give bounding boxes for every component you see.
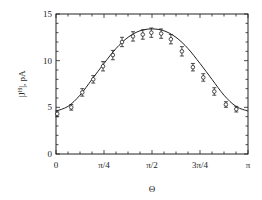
data-point bbox=[120, 37, 124, 46]
x-tick-label: π/4 bbox=[98, 160, 110, 170]
open-circle-marker bbox=[150, 31, 154, 35]
open-circle-marker bbox=[169, 37, 173, 41]
fit-curve bbox=[56, 29, 248, 111]
data-point bbox=[80, 89, 84, 96]
data-points bbox=[55, 28, 238, 117]
x-tick-label: π bbox=[246, 160, 251, 170]
open-circle-marker bbox=[91, 78, 95, 82]
data-point bbox=[224, 102, 228, 108]
open-circle-marker bbox=[224, 103, 228, 107]
data-point bbox=[169, 35, 173, 44]
data-point bbox=[180, 47, 184, 56]
open-circle-marker bbox=[101, 64, 105, 68]
y-axis-ticks: 051015 bbox=[43, 9, 248, 159]
open-circle-marker bbox=[191, 65, 195, 69]
y-tick-label: 5 bbox=[48, 102, 53, 112]
open-circle-marker bbox=[159, 32, 163, 36]
plot-frame bbox=[56, 14, 248, 154]
x-axis-label: Θ bbox=[149, 184, 156, 194]
fit-line bbox=[56, 29, 248, 111]
y-tick-label: 15 bbox=[43, 9, 53, 19]
open-circle-marker bbox=[111, 53, 115, 57]
open-circle-marker bbox=[212, 90, 216, 94]
x-tick-label: 0 bbox=[54, 160, 59, 170]
open-circle-marker bbox=[80, 91, 84, 95]
data-point bbox=[201, 74, 205, 81]
open-circle-marker bbox=[69, 106, 73, 110]
y-tick-label: 0 bbox=[48, 149, 53, 159]
x-tick-label: π/2 bbox=[146, 160, 158, 170]
open-circle-marker bbox=[131, 35, 135, 39]
open-circle-marker bbox=[201, 76, 205, 80]
open-circle-marker bbox=[120, 40, 124, 44]
open-circle-marker bbox=[234, 107, 238, 111]
open-circle-marker bbox=[141, 33, 145, 37]
plot-border bbox=[56, 14, 248, 154]
open-circle-marker bbox=[55, 112, 59, 116]
x-tick-label: 3π/4 bbox=[192, 160, 209, 170]
y-tick-label: 10 bbox=[43, 56, 53, 66]
y-axis-label: |JH|, pA bbox=[17, 70, 27, 97]
data-point bbox=[212, 88, 216, 95]
data-point bbox=[111, 50, 115, 59]
open-circle-marker bbox=[180, 50, 184, 54]
data-point bbox=[191, 63, 195, 70]
chart: 0π/4π/23π/4π 051015 Θ |JH|, pA bbox=[0, 0, 262, 200]
data-point bbox=[91, 76, 95, 83]
data-point bbox=[141, 30, 145, 39]
